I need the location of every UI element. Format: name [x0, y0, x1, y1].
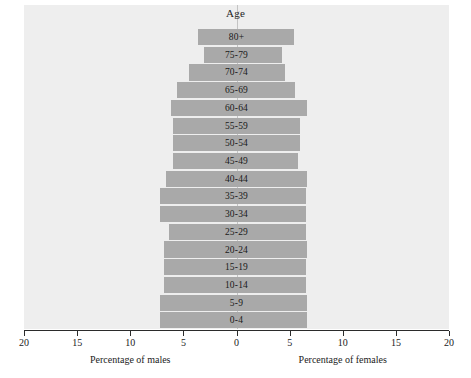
bar-male — [160, 312, 237, 328]
bar-female — [237, 82, 295, 98]
bar-male — [173, 118, 237, 134]
bar-female — [237, 64, 286, 80]
bar-male — [173, 153, 237, 169]
bar-female — [237, 206, 306, 222]
bar-female — [237, 29, 294, 45]
bar-female — [237, 241, 307, 257]
x-tick-mark — [183, 331, 184, 336]
bar-male — [166, 171, 236, 187]
age-group-row: 5-9 — [24, 295, 449, 311]
x-tick-label: 20 — [19, 337, 29, 348]
bar-female — [237, 224, 306, 240]
x-tick-label: 15 — [391, 337, 401, 348]
age-group-row: 45-49 — [24, 153, 449, 169]
bar-male — [160, 295, 237, 311]
age-group-row: 15-19 — [24, 259, 449, 275]
x-tick-label: 5 — [181, 337, 186, 348]
bar-male — [169, 224, 237, 240]
bar-female — [237, 188, 306, 204]
age-group-row: 10-14 — [24, 277, 449, 293]
x-tick-label: 0 — [234, 337, 239, 348]
bar-female — [237, 259, 306, 275]
x-tick-mark — [237, 331, 238, 336]
bar-male — [160, 188, 237, 204]
x-tick-mark — [130, 331, 131, 336]
bar-female — [237, 135, 301, 151]
x-tick-mark — [396, 331, 397, 336]
x-tick-mark — [449, 331, 450, 336]
age-group-row: 20-24 — [24, 241, 449, 257]
x-tick-label: 15 — [72, 337, 82, 348]
bar-male — [171, 100, 237, 116]
x-tick-label: 5 — [287, 337, 292, 348]
x-tick-mark — [343, 331, 344, 336]
bar-female — [237, 277, 306, 293]
bar-male — [204, 47, 237, 63]
x-tick-label: 10 — [338, 337, 348, 348]
age-group-row: 35-39 — [24, 188, 449, 204]
x-tick-mark — [77, 331, 78, 336]
age-group-row: 50-54 — [24, 135, 449, 151]
x-tick-label: 20 — [444, 337, 454, 348]
x-axis-label-males: Percentage of males — [90, 354, 171, 365]
bar-male — [189, 64, 237, 80]
bar-male — [164, 259, 236, 275]
age-group-row: 65-69 — [24, 82, 449, 98]
bar-male — [164, 241, 236, 257]
age-group-row: 40-44 — [24, 171, 449, 187]
bar-female — [237, 47, 283, 63]
age-group-row: 30-34 — [24, 206, 449, 222]
bars-area: 80+75-7970-7465-6960-6455-5950-5445-4940… — [24, 29, 449, 329]
bar-male — [173, 135, 237, 151]
bar-female — [237, 118, 301, 134]
bar-male — [164, 277, 236, 293]
age-group-row: 25-29 — [24, 224, 449, 240]
population-pyramid-figure: Age 80+75-7970-7465-6960-6455-5950-5445-… — [0, 0, 471, 378]
bar-female — [237, 153, 299, 169]
bar-female — [237, 295, 307, 311]
bar-female — [237, 171, 307, 187]
x-tick-mark — [24, 331, 25, 336]
bar-female — [237, 312, 307, 328]
bar-male — [177, 82, 237, 98]
x-tick-label: 10 — [125, 337, 135, 348]
age-group-row: 70-74 — [24, 64, 449, 80]
age-group-row: 55-59 — [24, 118, 449, 134]
bar-female — [237, 100, 307, 116]
chart-title: Age — [0, 7, 471, 19]
x-tick-mark — [290, 331, 291, 336]
age-group-row: 0-4 — [24, 312, 449, 328]
age-group-row: 80+ — [24, 29, 449, 45]
bar-male — [198, 29, 236, 45]
age-group-row: 60-64 — [24, 100, 449, 116]
age-group-row: 75-79 — [24, 47, 449, 63]
x-axis-label-females: Percentage of females — [299, 354, 387, 365]
bar-male — [160, 206, 237, 222]
